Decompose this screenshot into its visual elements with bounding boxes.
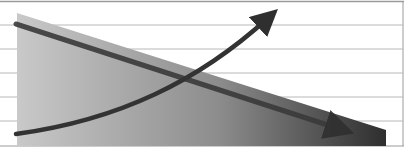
trend-chart (0, 0, 412, 165)
